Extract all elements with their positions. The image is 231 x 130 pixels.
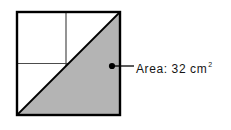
area-label: Area: 32 cm2 xyxy=(136,59,211,76)
area-label-text: Area: 32 cm xyxy=(136,62,207,76)
figure-canvas: Area: 32 cm2 xyxy=(0,0,231,130)
area-exponent-superscript: 2 xyxy=(208,61,212,68)
marker-dot xyxy=(109,63,115,69)
